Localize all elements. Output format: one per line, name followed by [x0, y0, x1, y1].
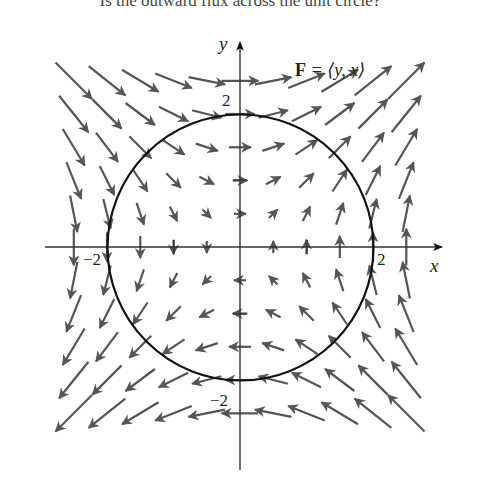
field-arrow — [388, 395, 425, 432]
x-axis-label: x — [429, 255, 439, 276]
field-arrow — [63, 129, 85, 166]
field-arrow — [329, 136, 351, 158]
field-arrow — [403, 262, 410, 299]
field-arrow — [96, 133, 118, 162]
field-arrow — [189, 410, 226, 417]
field-arrow — [199, 177, 214, 184]
field-arrow — [137, 203, 144, 225]
field-arrow — [303, 206, 310, 221]
field-arrow — [56, 395, 93, 432]
field-arrow — [399, 162, 414, 199]
field-arrow — [159, 373, 188, 388]
field-arrow — [266, 177, 281, 184]
tick-label-y-pos-2: 2 — [222, 91, 231, 110]
field-arrow — [89, 66, 126, 95]
field-arrow — [170, 206, 177, 221]
field-arrow — [163, 339, 185, 354]
field-arrow — [166, 173, 181, 188]
field-arrow — [70, 262, 77, 299]
field-arrow — [362, 133, 384, 162]
field-arrow — [325, 103, 354, 125]
field-arrow — [133, 170, 148, 192]
field-arrow — [395, 329, 417, 366]
field-arrow — [96, 332, 118, 361]
field-arrow — [59, 96, 88, 133]
field-arrow — [155, 406, 192, 421]
field-arrow — [395, 129, 417, 166]
field-arrow — [269, 210, 278, 219]
y-axis-label: y — [217, 33, 228, 54]
field-arrow — [325, 369, 354, 391]
field-arrow — [322, 402, 359, 424]
field-arrow — [89, 399, 126, 428]
field-arrow — [366, 166, 381, 195]
field-arrow — [92, 365, 121, 394]
field-arrow — [66, 295, 81, 332]
field-arrow — [299, 173, 314, 188]
field-arrow — [70, 196, 77, 233]
field-arrow — [129, 136, 151, 158]
field-arrow — [155, 73, 192, 88]
field-arrow — [170, 273, 177, 288]
field-arrow — [362, 332, 384, 361]
field-arrow — [292, 373, 321, 388]
field-arrow — [332, 170, 347, 192]
field-arrow — [262, 343, 284, 350]
field-arrow — [133, 303, 148, 325]
field-arrow — [159, 107, 188, 122]
field-arrow — [388, 63, 425, 100]
field-arrow — [266, 310, 281, 317]
field-arrow — [255, 410, 292, 417]
field-arrow — [56, 63, 93, 100]
tick-label-x-pos-2: 2 — [377, 250, 386, 269]
field-arrow — [366, 299, 381, 328]
field-arrow — [92, 99, 121, 128]
field-arrow — [262, 144, 284, 151]
field-arrow — [303, 273, 310, 288]
field-arrow — [166, 306, 181, 321]
field-arrow — [203, 276, 212, 285]
field-arrow — [392, 96, 421, 133]
field-arrow — [255, 77, 292, 84]
field-arrow — [129, 336, 151, 358]
field-arrow — [299, 306, 314, 321]
field-arrow — [203, 210, 212, 219]
tick-label-x-neg-2: −2 — [83, 250, 101, 269]
field-arrow — [63, 329, 85, 366]
field-arrow — [66, 162, 81, 199]
field-arrow — [126, 369, 155, 391]
field-arrow — [196, 343, 218, 350]
vector-field-plot: y x −2 2 2 −2 F = ⟨y, x⟩ — [0, 0, 480, 490]
field-arrow — [355, 399, 392, 428]
field-arrow — [358, 99, 387, 128]
field-arrow — [59, 362, 88, 399]
field-arrow — [336, 203, 343, 225]
field-arrow — [329, 336, 351, 358]
tick-label-y-neg-2: −2 — [210, 391, 228, 410]
field-arrow — [332, 303, 347, 325]
field-arrow — [288, 406, 325, 421]
field-arrow — [403, 196, 410, 233]
field-arrow — [336, 269, 343, 291]
field-arrow — [122, 402, 159, 424]
field-arrow — [399, 295, 414, 332]
field-arrow — [163, 140, 185, 155]
field-arrow — [189, 77, 226, 84]
field-arrow — [137, 269, 144, 291]
field-arrow — [392, 362, 421, 399]
field-arrow — [358, 365, 387, 394]
field-arrow — [199, 310, 214, 317]
field-arrow — [126, 103, 155, 125]
field-arrow — [269, 276, 278, 285]
field-arrow — [292, 107, 321, 122]
field-arrow — [196, 144, 218, 151]
field-arrow — [100, 166, 115, 195]
field-arrow — [296, 339, 318, 354]
field-arrow — [296, 140, 318, 155]
field-arrow — [122, 70, 159, 92]
field-arrow — [100, 299, 115, 328]
field-formula-label: F = ⟨y, x⟩ — [295, 60, 365, 80]
